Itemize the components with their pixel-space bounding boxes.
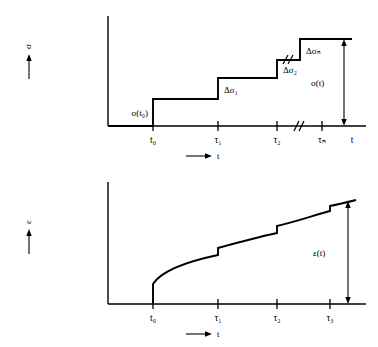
upper-initial-stress-label: σ(t₀) (132, 108, 148, 118)
upper-y-axis-label: σ (23, 44, 33, 49)
upper-tick-label-tau2: τ₂ (273, 135, 280, 145)
lower-dimension-arrow: ε(t) (313, 201, 351, 304)
lower-x-axis-arrow-group: t (186, 329, 220, 339)
lower-x-axis-arrow-head (205, 331, 212, 336)
lower-dimension-label: ε(t) (313, 248, 325, 258)
diagram-svg: σ t₀ τ₁ τ₂ τ (0, 0, 378, 347)
upper-tick-label-tauN: τₙ (318, 135, 326, 145)
upper-tick-label-t0: t₀ (150, 135, 156, 145)
lower-tick-label-tau2: τ₂ (273, 313, 280, 323)
creep-strain-curve (153, 200, 356, 304)
upper-x-axis-arrow-head (205, 153, 212, 158)
upper-tick-label-tau1: τ₁ (214, 135, 221, 145)
upper-plot: σ t₀ τ₁ τ₂ τ (23, 16, 366, 161)
lower-y-axis-label: ε (23, 220, 33, 224)
lower-tick-label-tau1: τ₁ (214, 313, 221, 323)
upper-x-axis-label: t (217, 151, 220, 161)
lower-y-axis-label-group: ε (23, 220, 33, 254)
lower-tick-label-t0: t₀ (150, 313, 156, 323)
lower-x-axis-label: t (217, 329, 220, 339)
lower-y-axis-arrow-head (26, 229, 31, 236)
lower-plot: ε t₀ τ₁ τ₂ τ₃ t (23, 182, 366, 339)
upper-dimension-label: σ(t) (311, 78, 324, 88)
upper-y-axis-arrow-head (26, 54, 31, 61)
upper-dimension-head-bottom (341, 119, 346, 126)
upper-step-label-1: Δσ₁ (224, 85, 238, 95)
upper-x-axis-arrow-group: t (186, 151, 220, 161)
upper-step-label-N: Δσₙ (306, 46, 321, 56)
upper-y-axis-label-group: σ (23, 44, 33, 79)
lower-dimension-head-bottom (345, 297, 350, 304)
upper-tick-label-t: t (351, 135, 354, 145)
figure-container: σ t₀ τ₁ τ₂ τ (0, 0, 378, 347)
upper-step-label-2: Δσ₂ (283, 65, 297, 75)
lower-tick-label-tau3: τ₃ (326, 313, 333, 323)
upper-dimension-head-top (341, 39, 346, 46)
